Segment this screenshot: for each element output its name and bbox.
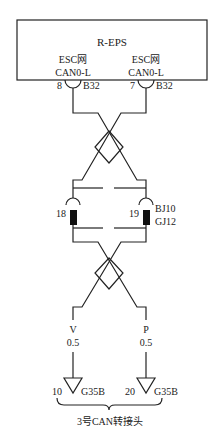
group-brace <box>57 398 162 410</box>
wire-segment <box>73 225 146 320</box>
left-signal-label: CAN0-L <box>55 67 91 78</box>
mid-connector-bottom-id: GJ12 <box>155 216 176 227</box>
bottom-left-connector-id: G35B <box>81 386 105 397</box>
mid-connector-top-id: BJ10 <box>155 203 176 214</box>
bottom-right-pin-number: 20 <box>125 386 135 397</box>
top-right-connector-id: B32 <box>156 80 173 91</box>
left-wire-gauge: 0.5 <box>67 337 80 348</box>
right-signal-label: CAN0-L <box>128 67 164 78</box>
top-right-pin-number: 7 <box>130 80 135 91</box>
mid-left-terminal-icon <box>70 210 77 225</box>
left-wire-color: V <box>69 324 77 335</box>
mid-right-pin-number: 19 <box>129 208 139 219</box>
left-net-label: ESC网 <box>59 54 87 65</box>
bottom-left-pin-icon <box>64 378 82 393</box>
bottom-connector-label: 3号CAN转接头 <box>77 415 143 427</box>
wire-segment <box>73 225 146 320</box>
wire-segment <box>73 88 146 198</box>
right-wire-gauge: 0.5 <box>140 337 153 348</box>
top-left-connector-id: B32 <box>83 80 100 91</box>
right-wire-color: P <box>143 324 149 335</box>
top-right-pin-icon <box>138 80 154 88</box>
bottom-right-connector-id: G35B <box>154 386 178 397</box>
mid-left-pin-icon <box>66 198 80 205</box>
bottom-right-pin-icon <box>137 378 155 393</box>
right-net-label: ESC网 <box>132 54 160 65</box>
top-left-pin-number: 8 <box>57 80 62 91</box>
top-left-pin-icon <box>65 80 81 88</box>
mid-right-terminal-icon <box>143 210 150 225</box>
wiring-diagram: R-EPS ESC网 CAN0-L ESC网 CAN0-L 8 B32 7 B3… <box>0 0 220 440</box>
r-eps-module-box <box>17 20 207 80</box>
mid-left-pin-number: 18 <box>56 208 66 219</box>
module-title: R-EPS <box>97 36 127 48</box>
wire-segment <box>73 88 146 198</box>
twisted-pair-icon <box>95 131 123 163</box>
mid-right-pin-icon <box>139 198 153 205</box>
bottom-left-pin-number: 10 <box>52 386 62 397</box>
